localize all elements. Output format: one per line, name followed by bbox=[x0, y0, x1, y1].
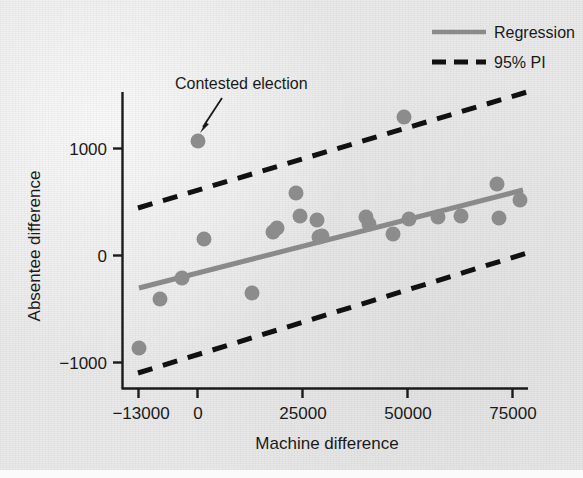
x-tick-label-75000: 75000 bbox=[489, 404, 536, 423]
data-point bbox=[492, 211, 507, 226]
x-axis-title: Machine difference bbox=[255, 434, 398, 453]
x-tick-label-neg13000: −13000 bbox=[112, 404, 169, 423]
figure-container: 1000 0 −1000 −13000 0 25000 50000 75000 … bbox=[0, 0, 583, 478]
pi-upper-line bbox=[138, 92, 527, 208]
y-tick-label-0: 0 bbox=[98, 247, 107, 266]
data-point-contested-election bbox=[191, 134, 206, 149]
data-point bbox=[153, 292, 168, 307]
scatter-points bbox=[132, 110, 528, 356]
data-point bbox=[362, 217, 377, 232]
data-point bbox=[289, 186, 304, 201]
annotation-label-contested-election: Contested election bbox=[175, 75, 308, 92]
legend-label-pi: 95% PI bbox=[494, 54, 546, 71]
data-point bbox=[513, 193, 528, 208]
data-point bbox=[197, 232, 212, 247]
y-axis-title: Absentee difference bbox=[25, 171, 44, 322]
data-point bbox=[175, 271, 190, 286]
legend: Regression 95% PI bbox=[432, 24, 575, 71]
x-tick-label-25000: 25000 bbox=[279, 404, 326, 423]
data-point bbox=[386, 227, 401, 242]
data-point bbox=[490, 177, 505, 192]
x-tick-label-50000: 50000 bbox=[384, 404, 431, 423]
contested-election-annotation: Contested election bbox=[175, 75, 308, 133]
x-axis-ticks bbox=[139, 389, 513, 398]
data-point bbox=[293, 209, 308, 224]
y-tick-label-1000: 1000 bbox=[69, 140, 107, 159]
data-point bbox=[402, 212, 417, 227]
data-point bbox=[310, 213, 325, 228]
y-tick-label-neg1000: −1000 bbox=[59, 354, 107, 373]
data-point bbox=[270, 221, 285, 236]
annotation-arrow-line bbox=[203, 98, 222, 127]
data-point bbox=[454, 209, 469, 224]
legend-label-regression: Regression bbox=[494, 24, 575, 41]
data-point bbox=[397, 110, 412, 125]
data-point bbox=[431, 210, 446, 225]
data-point bbox=[315, 229, 330, 244]
scatter-chart: 1000 0 −1000 −13000 0 25000 50000 75000 … bbox=[0, 0, 583, 478]
data-point bbox=[245, 286, 260, 301]
data-point bbox=[132, 341, 147, 356]
x-tick-label-0: 0 bbox=[193, 404, 202, 423]
y-axis-ticks bbox=[113, 149, 122, 363]
